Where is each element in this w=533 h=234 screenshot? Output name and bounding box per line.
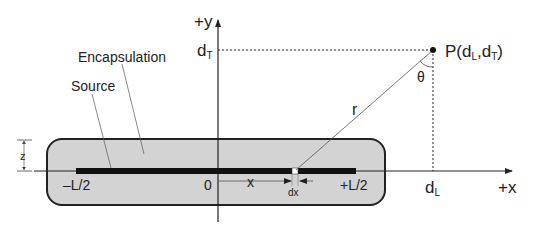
minus-half-length-label: –L/2 <box>63 177 90 193</box>
y-axis-label: +y <box>194 12 213 31</box>
point-p-label: P(dL,dT) <box>445 42 503 62</box>
x-axis-label: +x <box>498 178 517 197</box>
origin-label: 0 <box>204 177 212 193</box>
dx-label: dx <box>288 187 299 198</box>
theta-label: θ <box>417 69 425 85</box>
point-p <box>430 47 436 53</box>
z-label: z <box>20 150 26 162</box>
dL-label: dL <box>425 178 440 198</box>
source-bar <box>76 168 356 174</box>
theta-arc <box>420 61 433 67</box>
r-label: r <box>352 101 358 118</box>
source-label: Source <box>71 78 116 94</box>
plus-half-length-label: +L/2 <box>340 177 368 193</box>
dT-label: dT <box>197 41 213 61</box>
diagram-canvas: +y +x 0 Encapsulation Source z –L/2 +L/2… <box>0 0 533 234</box>
encapsulation-label: Encapsulation <box>78 49 166 65</box>
x-label: x <box>247 174 254 190</box>
